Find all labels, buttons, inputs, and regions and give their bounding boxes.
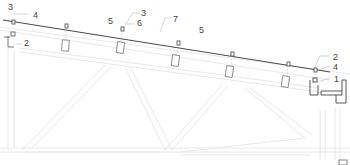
base-plate — [339, 160, 347, 165]
diagram-canvas: 3 4 2 5 3 6 7 5 2 4 1 — [0, 0, 350, 165]
callout-label: 4 — [33, 11, 38, 20]
truss-drawing — [0, 0, 350, 165]
callout-label: 3 — [8, 3, 13, 12]
main-slope-line — [3, 20, 330, 72]
callout-label: 5 — [199, 26, 204, 35]
right-anchor — [310, 78, 346, 103]
callout-label: 2 — [24, 39, 29, 48]
callout-label: 1 — [334, 75, 339, 84]
leader-lines — [14, 13, 330, 82]
callout-label: 4 — [333, 63, 338, 72]
callout-label: 7 — [173, 15, 178, 24]
left-anchor — [4, 32, 15, 47]
callout-label: 3 — [141, 9, 146, 18]
callout-label: 6 — [137, 19, 142, 28]
hanging-blocks — [62, 40, 290, 88]
callout-label: 2 — [333, 53, 338, 62]
callout-label: 5 — [108, 17, 113, 26]
